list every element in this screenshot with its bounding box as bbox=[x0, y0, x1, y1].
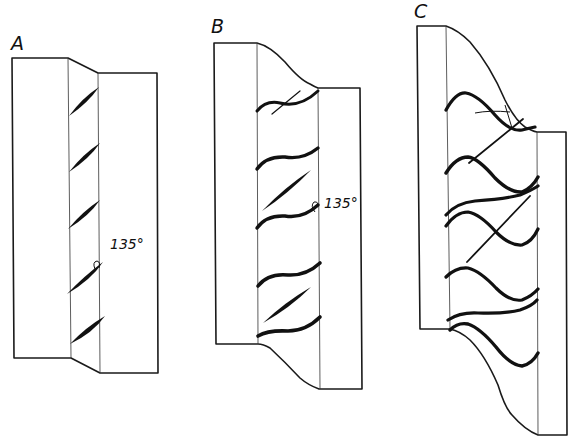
panel-a-zone-left bbox=[68, 58, 71, 358]
panel-b-sigmoid-strokes bbox=[257, 91, 320, 336]
panel-b-angle-label: 135° bbox=[324, 195, 358, 211]
panel-c: C bbox=[414, 0, 567, 435]
panel-b-cross-lines bbox=[262, 91, 311, 323]
panel-b-label: B bbox=[211, 15, 224, 37]
panel-c-zone-left bbox=[446, 26, 450, 329]
panel-b-zone-left bbox=[257, 43, 258, 344]
panel-c-sigmoid-strokes bbox=[446, 93, 538, 366]
panel-a-angle-label: 135° bbox=[110, 236, 144, 252]
panel-b: B 135° bbox=[211, 15, 362, 389]
panel-c-outline bbox=[417, 26, 567, 435]
panel-c-label: C bbox=[414, 0, 428, 22]
panel-b-zone-right bbox=[318, 88, 320, 389]
panel-a: A 135° bbox=[9, 32, 158, 373]
panel-a-zone-right bbox=[98, 73, 100, 373]
diagram-canvas: A 135° B bbox=[0, 0, 579, 443]
panel-a-label: A bbox=[9, 32, 24, 54]
